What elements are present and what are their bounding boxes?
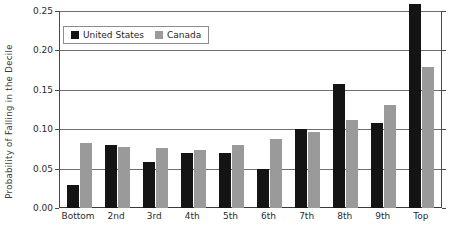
legend-label: Canada <box>167 30 201 40</box>
x-axis-tick-label: 5th <box>211 211 249 231</box>
y-axis-tick-mark <box>55 129 59 130</box>
y-axis-tick-labels: 0.000.050.100.150.200.25 <box>18 0 56 243</box>
black-square-swatch <box>71 31 79 39</box>
y-axis-tick-label: 0.25 <box>33 6 53 16</box>
y-axis-tick-label: 0.00 <box>33 203 53 213</box>
bar-group <box>212 11 250 208</box>
bar-united-states-3rd <box>143 162 155 208</box>
y-axis-tick-label: 0.05 <box>33 164 53 174</box>
x-axis-tick-label: 9th <box>364 211 402 231</box>
y-axis-tick-mark-right <box>442 129 446 130</box>
x-axis-tick-label: 3rd <box>135 211 173 231</box>
y-axis-tick-label: 0.15 <box>33 85 53 95</box>
bar-group <box>289 11 327 208</box>
y-axis-tick-mark <box>55 50 59 51</box>
bar-united-states-8th <box>333 84 345 209</box>
y-axis-tick-mark-right <box>442 50 446 51</box>
bar-united-states-6th <box>257 169 269 208</box>
bar-canada-5th <box>232 145 244 208</box>
bar-group <box>403 11 441 208</box>
bar-united-states-5th <box>219 153 231 208</box>
bar-canada-3rd <box>156 148 168 208</box>
x-axis-tick-label: 8th <box>326 211 364 231</box>
x-axis-tick-label: Top <box>402 211 440 231</box>
y-axis-tick-mark <box>55 208 59 209</box>
bar-canada-7th <box>308 132 320 208</box>
bar-group <box>250 11 288 208</box>
bar-canada-6th <box>270 139 282 208</box>
bar-united-states-9th <box>371 123 383 208</box>
legend-entry: United States <box>71 30 144 40</box>
bar-united-states-7th <box>295 129 307 208</box>
bar-group <box>327 11 365 208</box>
x-axis-tick-label: 7th <box>288 211 326 231</box>
bar-chart: Probability of Falling in the Decile 0.0… <box>0 0 466 243</box>
bar-united-states-2nd <box>105 145 117 208</box>
y-axis-tick-mark-right <box>442 90 446 91</box>
bar-united-states-top <box>409 4 421 208</box>
y-axis-tick-mark-right <box>442 11 446 12</box>
bar-canada-4th <box>194 150 206 208</box>
x-axis-tick-labels: Bottom2nd3rd4th5th6th7th8th9thTop <box>59 211 440 231</box>
y-axis-tick-mark-right <box>442 208 446 209</box>
bar-group <box>365 11 403 208</box>
bar-canada-bottom <box>80 143 92 208</box>
x-axis-tick-label: 2nd <box>97 211 135 231</box>
y-axis-tick-label: 0.10 <box>33 124 53 134</box>
bar-united-states-bottom <box>67 185 79 208</box>
bar-united-states-4th <box>181 153 193 208</box>
bar-canada-8th <box>346 120 358 208</box>
legend-label: United States <box>83 30 144 40</box>
y-axis-title: Probability of Falling in the Decile <box>0 0 18 243</box>
gray-square-swatch <box>155 31 163 39</box>
chart-legend: United StatesCanada <box>63 26 209 44</box>
bar-canada-9th <box>384 105 396 208</box>
x-axis-tick-label: 6th <box>249 211 287 231</box>
bar-canada-top <box>422 67 434 208</box>
y-axis-tick-mark-right <box>442 169 446 170</box>
y-axis-tick-mark <box>55 11 59 12</box>
x-axis-tick-label: 4th <box>173 211 211 231</box>
bar-canada-2nd <box>118 147 130 208</box>
y-axis-tick-label: 0.20 <box>33 45 53 55</box>
y-axis-tick-mark <box>55 169 59 170</box>
x-axis-tick-label: Bottom <box>59 211 97 231</box>
legend-entry: Canada <box>155 30 201 40</box>
y-axis-tick-mark <box>55 90 59 91</box>
